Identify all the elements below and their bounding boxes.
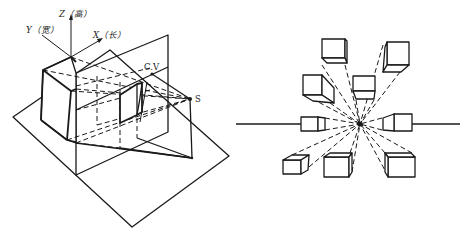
x-axis [71,40,100,57]
cube-bottom-left [283,155,309,174]
station-vertical [190,99,192,158]
cube-top-left [322,39,347,63]
z-axis-label: Z（高） [58,9,92,19]
cube-mid-left [303,75,334,103]
vanishing-point [358,122,363,127]
left-perspective-figure: Z（高） Y（宽） X（长） C.V S [13,9,229,227]
cv-point [150,72,153,75]
cube-top-right [383,42,409,72]
cv-label: C.V [144,62,160,72]
y-axis-label: Y（宽） [26,25,59,35]
cube-horizon-left [301,117,325,131]
x-axis-label: X（长） [92,30,126,40]
cube-bottom-center [324,153,352,177]
right-vanishing-figure [236,39,460,177]
diagram-canvas: Z（高） Y（宽） X（长） C.V S [0,0,472,238]
cube-bottom-right [385,153,415,177]
projected-image [120,83,142,123]
y-axis [42,35,71,57]
s-label: S [195,94,201,104]
box-object [41,57,76,143]
cube-center [353,76,375,99]
cube-horizon-right [383,114,412,131]
station-point [188,97,192,101]
